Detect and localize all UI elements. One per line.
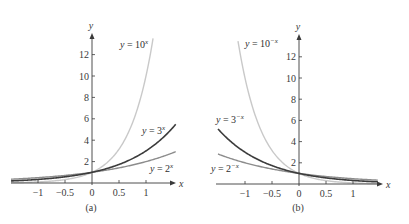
- chart-panel-a: xy−1−0.500.5124681012 y = 10xy = 3xy = 2…: [11, 20, 184, 214]
- y-tick-label: 4: [291, 136, 296, 147]
- y-axis-label: y: [88, 20, 94, 31]
- y-tick-label: 10: [79, 71, 89, 82]
- curve-y-2-x: [218, 154, 378, 180]
- panel-label-b: (b): [292, 202, 304, 214]
- y-tick-label: 6: [84, 113, 89, 124]
- y-tick-label: 8: [84, 92, 89, 103]
- panel-label-a: (a): [85, 202, 96, 214]
- y-tick-label: 12: [79, 49, 89, 60]
- x-axis-arrow-icon: [170, 181, 176, 186]
- chart-panel-b: xy−1−0.500.5124681012 y = 10−xy = 3−xy =…: [210, 21, 391, 214]
- x-tick-label: 1: [351, 188, 356, 199]
- curve-label: y = 3x: [141, 124, 166, 136]
- y-axis-arrow-icon: [90, 33, 95, 39]
- y-tick-label: 2: [291, 157, 296, 168]
- x-axis-label: x: [385, 179, 391, 190]
- curve-label: y = 10−x: [244, 37, 279, 49]
- curve-label: y = 2x: [149, 162, 174, 174]
- curves-a: [11, 38, 176, 182]
- curve-label: y = 2−x: [210, 162, 240, 174]
- x-tick-label: −1: [240, 188, 251, 199]
- x-tick-label: 0.5: [113, 187, 126, 198]
- curve-labels-a: y = 10xy = 3xy = 2x: [119, 38, 174, 174]
- x-tick-label: 0.5: [320, 188, 333, 199]
- curve-y-3-x: [218, 129, 378, 182]
- y-tick-label: 6: [291, 115, 296, 126]
- x-axis-label: x: [178, 178, 184, 189]
- x-tick-label: 1: [144, 187, 149, 198]
- curve-label: y = 10x: [119, 38, 149, 50]
- x-tick-label: −1: [33, 187, 44, 198]
- y-tick-label: 12: [286, 51, 296, 62]
- x-tick-label: 0: [90, 187, 95, 198]
- y-tick-label: 4: [84, 135, 89, 146]
- y-axis-label: y: [295, 21, 301, 32]
- y-tick-label: 10: [286, 73, 296, 84]
- x-axis-arrow-icon: [377, 182, 383, 187]
- curve-label: y = 3−x: [215, 113, 245, 125]
- exponential-functions-figure: xy−1−0.500.5124681012 y = 10xy = 3xy = 2…: [0, 0, 409, 224]
- axes-b: xy−1−0.500.5124681012: [216, 21, 391, 199]
- curve-y-10-x: [238, 41, 378, 184]
- y-axis-arrow-icon: [297, 34, 302, 40]
- curve-labels-b: y = 10−xy = 3−xy = 2−x: [210, 37, 279, 174]
- y-tick-label: 2: [84, 156, 89, 167]
- x-tick-label: 0: [297, 188, 302, 199]
- y-tick-label: 8: [291, 94, 296, 105]
- x-tick-label: −0.5: [263, 188, 281, 199]
- x-tick-label: −0.5: [56, 187, 74, 198]
